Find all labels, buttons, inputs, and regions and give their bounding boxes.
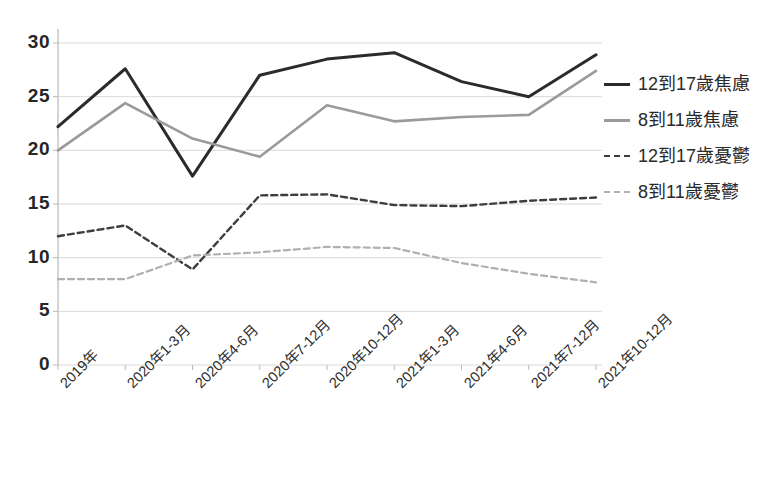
legend-item-label: 8到11歲憂鬱 — [638, 180, 739, 205]
series-line-3 — [58, 247, 596, 282]
legend-item[interactable]: 8到11歲焦慮 — [604, 108, 764, 133]
solid-dark-line-icon — [604, 75, 630, 93]
legend-item[interactable]: 12到17歲憂鬱 — [604, 144, 764, 169]
chart-legend: 12到17歲焦慮8到11歲焦慮12到17歲憂鬱8到11歲憂鬱 — [604, 72, 764, 216]
line-chart: 302520151050 2019年2020年1-3月2020年4-6月2020… — [0, 0, 765, 497]
legend-item[interactable]: 8到11歲憂鬱 — [604, 180, 764, 205]
series-line-1 — [58, 71, 596, 157]
legend-item-label: 12到17歲焦慮 — [638, 72, 750, 97]
solid-gray-line-icon — [604, 111, 630, 129]
dashed-gray-line-icon — [604, 183, 630, 201]
legend-item-label: 8到11歲焦慮 — [638, 108, 739, 133]
series-line-2 — [58, 194, 596, 269]
legend-item-label: 12到17歲憂鬱 — [638, 144, 750, 169]
legend-item[interactable]: 12到17歲焦慮 — [604, 72, 764, 97]
dashed-dark-line-icon — [604, 147, 630, 165]
